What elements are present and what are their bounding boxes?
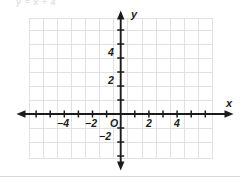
arrow-up-icon: [117, 11, 124, 20]
y-tick-label-neg2: −2: [99, 131, 111, 142]
bottom-divider: [0, 176, 240, 177]
x-axis-label: x: [226, 98, 232, 109]
x-tick-label-4: 4: [174, 118, 180, 129]
origin-label: O: [110, 118, 118, 129]
arrow-down-icon: [117, 162, 124, 171]
y-axis-label: y: [131, 9, 137, 20]
y-tick-label-2: 2: [108, 75, 114, 86]
x-tick-label-2: 2: [146, 118, 152, 129]
y-tick-label-4: 4: [108, 47, 114, 58]
x-tick-label-neg2: −2: [85, 118, 97, 129]
figure-root: y = x + 4: [0, 0, 240, 183]
coordinate-plane: [0, 0, 240, 183]
x-axis: [17, 110, 234, 118]
arrow-right-icon: [225, 110, 234, 118]
y-axis: [117, 11, 124, 171]
arrow-left-icon: [17, 110, 26, 118]
x-tick-label-neg4: −4: [57, 118, 69, 129]
